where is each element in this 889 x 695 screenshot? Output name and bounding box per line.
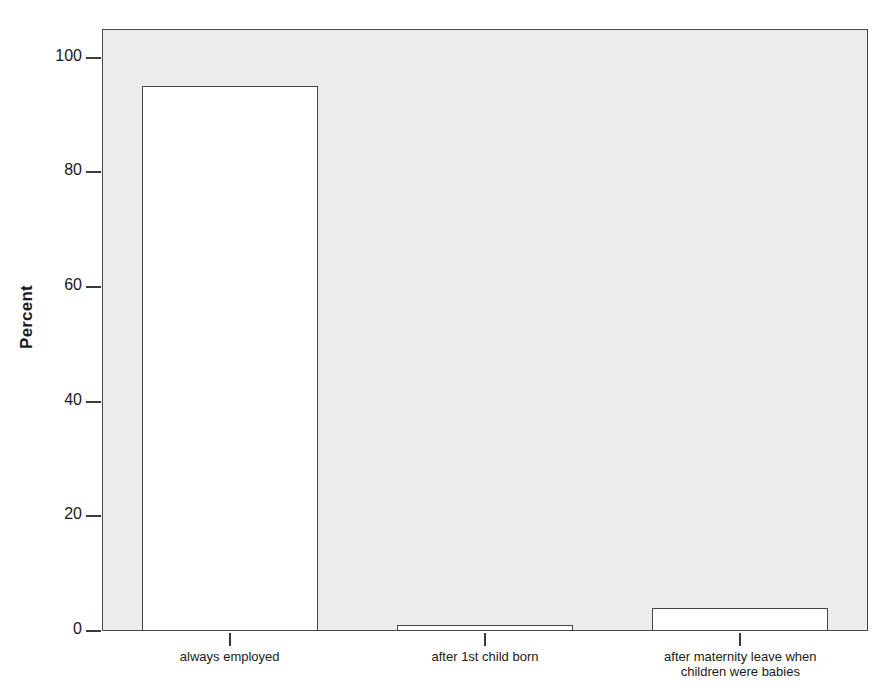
y-tick-mark bbox=[86, 171, 101, 173]
bar bbox=[397, 625, 573, 631]
x-tick-label: after 1st child born bbox=[365, 649, 605, 664]
y-tick-label: 20 bbox=[24, 505, 82, 523]
x-tick-label: always employed bbox=[110, 649, 350, 664]
x-tick-label-line: after 1st child born bbox=[432, 649, 539, 664]
y-tick-label: 40 bbox=[24, 391, 82, 409]
y-tick-label: 0 bbox=[24, 620, 82, 638]
x-tick-label-line: always employed bbox=[180, 649, 280, 664]
y-tick-mark bbox=[86, 286, 101, 288]
bar bbox=[652, 608, 828, 631]
y-tick-mark bbox=[86, 401, 101, 403]
y-tick-label: 100 bbox=[24, 47, 82, 65]
x-tick-label: after maternity leave whenchildren were … bbox=[620, 649, 860, 679]
y-tick-mark bbox=[86, 630, 101, 632]
x-tick-mark bbox=[229, 633, 231, 646]
y-tick-mark bbox=[86, 515, 101, 517]
y-tick-mark bbox=[86, 57, 101, 59]
y-tick-label: 80 bbox=[24, 161, 82, 179]
y-tick-label: 60 bbox=[24, 276, 82, 294]
x-tick-label-line: after maternity leave when bbox=[664, 649, 816, 664]
bar-chart: Percent 020406080100 always employedafte… bbox=[0, 0, 889, 695]
x-tick-mark bbox=[484, 633, 486, 646]
bar bbox=[142, 86, 318, 631]
x-tick-mark bbox=[739, 633, 741, 646]
x-tick-label-line: children were babies bbox=[620, 664, 860, 679]
